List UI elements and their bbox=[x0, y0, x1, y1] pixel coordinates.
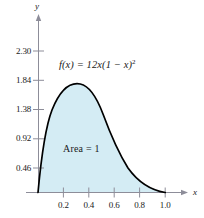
y-tick-label: 1.38 bbox=[0, 105, 31, 114]
figure-container: y x 2.30 1.84 1.38 0.92 0.46 0.2 0.4 0.6… bbox=[0, 0, 204, 218]
x-tick-label: 0.6 bbox=[100, 201, 128, 210]
function-formula-text: f(x) = 12x(1 − x) bbox=[59, 59, 132, 70]
y-axis-arrowhead bbox=[36, 14, 41, 21]
x-tick-label: 0.4 bbox=[75, 201, 103, 210]
y-tick-label: 1.84 bbox=[0, 76, 31, 85]
y-axis-label: y bbox=[35, 2, 39, 11]
x-tick-label: 1.0 bbox=[151, 201, 179, 210]
x-axis-arrowhead bbox=[181, 190, 188, 195]
x-tick-label: 0.8 bbox=[126, 201, 154, 210]
x-axis-label: x bbox=[193, 188, 197, 197]
y-tick-label: 2.30 bbox=[0, 47, 31, 56]
x-tick-label: 0.2 bbox=[49, 201, 77, 210]
y-tick-label: 0.46 bbox=[0, 164, 31, 173]
function-formula-exponent: 2 bbox=[132, 58, 136, 66]
area-annotation: Area = 1 bbox=[63, 144, 100, 154]
function-formula-annotation: f(x) = 12x(1 − x)2 bbox=[59, 60, 136, 71]
y-tick-label: 0.92 bbox=[0, 134, 31, 143]
